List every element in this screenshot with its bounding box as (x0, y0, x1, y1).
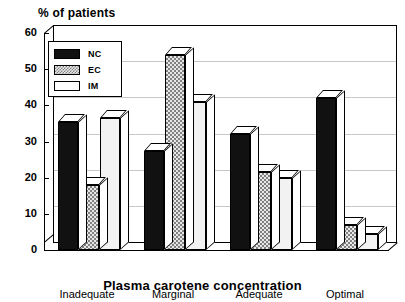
bar-side-face (120, 110, 129, 250)
bar-nc-optimal (316, 98, 336, 250)
bar-side-face (271, 164, 280, 250)
bar-side-face (164, 143, 173, 250)
bar-side-face (78, 114, 87, 250)
bar-side-face (185, 47, 194, 250)
y-tick-label: 20 (9, 171, 37, 183)
bar-front-face (58, 122, 78, 250)
bar-nc-marginal (144, 151, 164, 250)
y-tick-label: 0 (9, 243, 37, 255)
legend-entry-nc: NC (54, 46, 116, 61)
bar-nc-adequate (230, 134, 250, 250)
gridline (53, 97, 397, 98)
bar-front-face (144, 151, 164, 250)
bar-side-face (292, 170, 301, 250)
axis-right-back (396, 25, 397, 243)
y-tick-label: 60 (9, 26, 37, 38)
legend-swatch-nc (54, 49, 80, 59)
bar-front-face (316, 98, 336, 250)
axis-y-front (44, 33, 45, 251)
bar-chart: % of patients 0102030405060 InadequateMa… (0, 0, 405, 302)
legend-label-im: IM (88, 81, 99, 91)
bar-side-face (250, 126, 259, 250)
y-axis-title: % of patients (38, 6, 115, 20)
legend-swatch-im (54, 81, 80, 91)
bar-side-face (206, 94, 215, 250)
legend: NC EC IM (48, 41, 122, 97)
axis-top-back (53, 25, 397, 26)
y-tick-label: 50 (9, 62, 37, 74)
legend-swatch-ec (54, 65, 80, 75)
legend-entry-im: IM (54, 78, 116, 93)
bar-side-face (336, 90, 345, 250)
bar-front-face (230, 134, 250, 250)
legend-entry-ec: EC (54, 62, 116, 77)
legend-label-nc: NC (88, 49, 102, 59)
bar-nc-inadequate (58, 122, 78, 250)
bar-side-face (99, 177, 108, 250)
y-tick-label: 30 (9, 135, 37, 147)
x-axis-title: Plasma carotene concentration (0, 278, 405, 293)
axis-depth-right (388, 242, 398, 251)
legend-label-ec: EC (88, 65, 101, 75)
y-tick-label: 40 (9, 98, 37, 110)
y-tick-label: 10 (9, 207, 37, 219)
axis-x-front (44, 250, 389, 251)
